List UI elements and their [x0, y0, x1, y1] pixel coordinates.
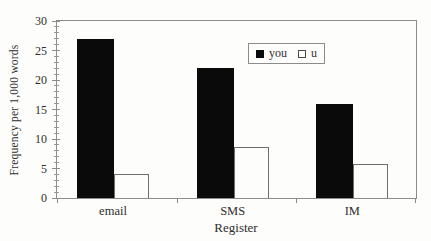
x-category-label-IM: IM	[345, 204, 360, 219]
y-minor-tick	[54, 38, 59, 39]
y-minor-tick	[54, 133, 59, 134]
y-tick-label: 25	[17, 44, 47, 58]
x-tick	[415, 199, 416, 203]
y-minor-tick	[54, 186, 59, 187]
y-major-tick	[52, 80, 60, 81]
y-minor-tick	[54, 32, 59, 33]
y-tick-label: 10	[17, 132, 47, 146]
legend-swatch-u	[298, 50, 306, 58]
y-tick-label: 20	[17, 73, 47, 87]
y-major-tick	[52, 21, 60, 22]
y-tick-label: 0	[17, 191, 47, 205]
legend-entry-you: you	[256, 46, 287, 61]
y-minor-tick	[54, 97, 59, 98]
x-category-label-SMS: SMS	[220, 204, 245, 219]
y-minor-tick	[54, 174, 59, 175]
y-minor-tick	[54, 56, 59, 57]
y-minor-tick	[54, 62, 59, 63]
bar-u-SMS	[234, 147, 269, 198]
y-major-tick	[52, 139, 60, 140]
y-minor-tick	[54, 26, 59, 27]
legend: youu	[248, 43, 325, 64]
y-major-tick	[52, 198, 60, 199]
y-minor-tick	[54, 150, 59, 151]
y-minor-tick	[54, 68, 59, 69]
y-minor-tick	[54, 91, 59, 92]
y-major-tick	[52, 168, 60, 169]
legend-entry-u: u	[298, 46, 317, 61]
bar-u-IM	[353, 164, 388, 198]
bar-you-email	[77, 39, 114, 198]
x-axis-title: Register	[214, 220, 257, 236]
plot-area: youu	[56, 20, 417, 199]
y-tick-label: 30	[17, 14, 47, 28]
y-minor-tick	[54, 74, 59, 75]
y-minor-tick	[54, 121, 59, 122]
y-minor-tick	[54, 103, 59, 104]
bar-u-email	[114, 174, 149, 198]
y-minor-tick	[54, 192, 59, 193]
y-minor-tick	[54, 127, 59, 128]
x-tick	[296, 199, 297, 203]
x-category-label-email: email	[99, 204, 127, 219]
x-tick	[177, 199, 178, 203]
bar-you-IM	[316, 104, 353, 198]
y-minor-tick	[54, 144, 59, 145]
bar-chart-figure: Frequency per 1,000 words youu Register …	[0, 0, 431, 241]
y-minor-tick	[54, 156, 59, 157]
legend-label-you: you	[269, 46, 287, 61]
y-tick-label: 15	[17, 103, 47, 117]
legend-label-u: u	[311, 46, 317, 61]
bar-you-SMS	[197, 68, 234, 198]
y-major-tick	[52, 50, 60, 51]
y-minor-tick	[54, 115, 59, 116]
y-major-tick	[52, 109, 60, 110]
y-minor-tick	[54, 85, 59, 86]
y-minor-tick	[54, 180, 59, 181]
y-minor-tick	[54, 44, 59, 45]
legend-swatch-you	[256, 50, 264, 58]
x-tick	[57, 199, 58, 203]
y-minor-tick	[54, 162, 59, 163]
y-tick-label: 5	[17, 162, 47, 176]
